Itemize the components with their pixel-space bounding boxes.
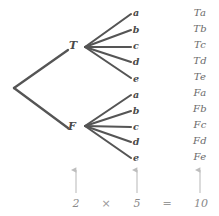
branch-F-d (85, 126, 131, 142)
tree-branches-svg (0, 0, 219, 216)
outcome-label-Fc: Fc (193, 120, 206, 130)
factor-2: 5 (134, 198, 141, 209)
branch-group-F (85, 95, 131, 158)
leaf-label-T-c: c (133, 41, 139, 51)
leaf-label-F-b: b (133, 106, 140, 116)
leaf-label-F-d: d (133, 137, 140, 147)
tree-diagram-canvas: TF abcdeabcde TaTbTcTdTeFaFbFcFdFe 2×5=1… (0, 0, 219, 216)
outcome-label-Ta: Ta (194, 8, 206, 18)
branch-T-d (85, 47, 131, 62)
leaf-label-T-e: e (133, 74, 139, 84)
branch-T-b (85, 30, 131, 47)
leaf-label-F-e: e (133, 153, 139, 163)
branch-F-c (85, 126, 131, 127)
branch-F-e (85, 126, 131, 158)
node-label-F: F (68, 121, 76, 132)
count-arrow-group (76, 170, 200, 193)
outcome-label-Te: Te (194, 72, 206, 82)
outcome-label-Fe: Fe (194, 152, 207, 162)
outcome-label-Td: Td (193, 56, 207, 66)
root-branch-T (14, 50, 68, 88)
leaf-label-T-b: b (133, 25, 140, 35)
leaf-label-F-a: a (133, 90, 139, 100)
leaf-label-F-c: c (133, 122, 139, 132)
branch-F-a (85, 95, 131, 126)
root-branch-group (14, 50, 68, 128)
product: 10 (194, 198, 208, 209)
node-label-T: T (69, 40, 77, 51)
leaf-label-T-a: a (133, 8, 139, 18)
equals-operator: = (162, 198, 171, 209)
outcome-label-Fd: Fd (193, 136, 207, 146)
outcome-label-Tb: Tb (193, 24, 207, 34)
branch-F-b (85, 111, 131, 126)
root-branch-F (14, 88, 68, 128)
branch-T-e (85, 47, 131, 78)
outcome-label-Fb: Fb (193, 104, 207, 114)
outcome-label-Tc: Tc (194, 40, 206, 50)
factor-1: 2 (73, 198, 80, 209)
leaf-label-T-d: d (133, 57, 140, 67)
branch-T-a (85, 14, 131, 47)
branch-group-T (85, 14, 131, 78)
outcome-label-Fa: Fa (194, 88, 207, 98)
multiply-operator: × (101, 198, 110, 209)
